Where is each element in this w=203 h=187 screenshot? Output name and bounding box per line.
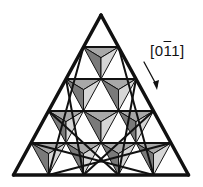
triangle-diagram: [011] xyxy=(0,0,203,187)
direction-label: [011] xyxy=(150,42,185,59)
triangular-lattice xyxy=(0,0,203,187)
